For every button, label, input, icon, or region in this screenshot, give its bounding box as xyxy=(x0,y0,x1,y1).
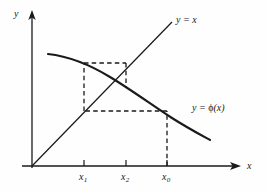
x-axis xyxy=(22,162,241,170)
x-axis-ticks xyxy=(84,160,167,166)
plot-canvas xyxy=(0,0,267,192)
tick-label-x0: x0 xyxy=(162,172,170,184)
tick-label-x2: x2 xyxy=(121,172,129,184)
phi-curve-label: y = ϕ(x) xyxy=(192,103,225,113)
phi-label-arg: (x) xyxy=(213,102,224,113)
tick-sub-x1: 1 xyxy=(83,176,87,184)
identity-line xyxy=(32,22,172,166)
identity-line-label: y = x xyxy=(176,15,197,25)
y-axis-label: y xyxy=(14,9,18,19)
cobweb-figure: y x y = x y = ϕ(x) x1 x2 x0 xyxy=(0,0,267,192)
tick-sub-x2: 2 xyxy=(125,176,129,184)
tick-label-x1: x1 xyxy=(79,172,87,184)
y-axis xyxy=(28,10,35,168)
x-axis-label: x xyxy=(247,161,251,171)
cobweb-dashed-path xyxy=(84,63,167,166)
tick-sub-x0: 0 xyxy=(166,176,170,184)
phi-label-prefix: y = xyxy=(192,102,208,113)
